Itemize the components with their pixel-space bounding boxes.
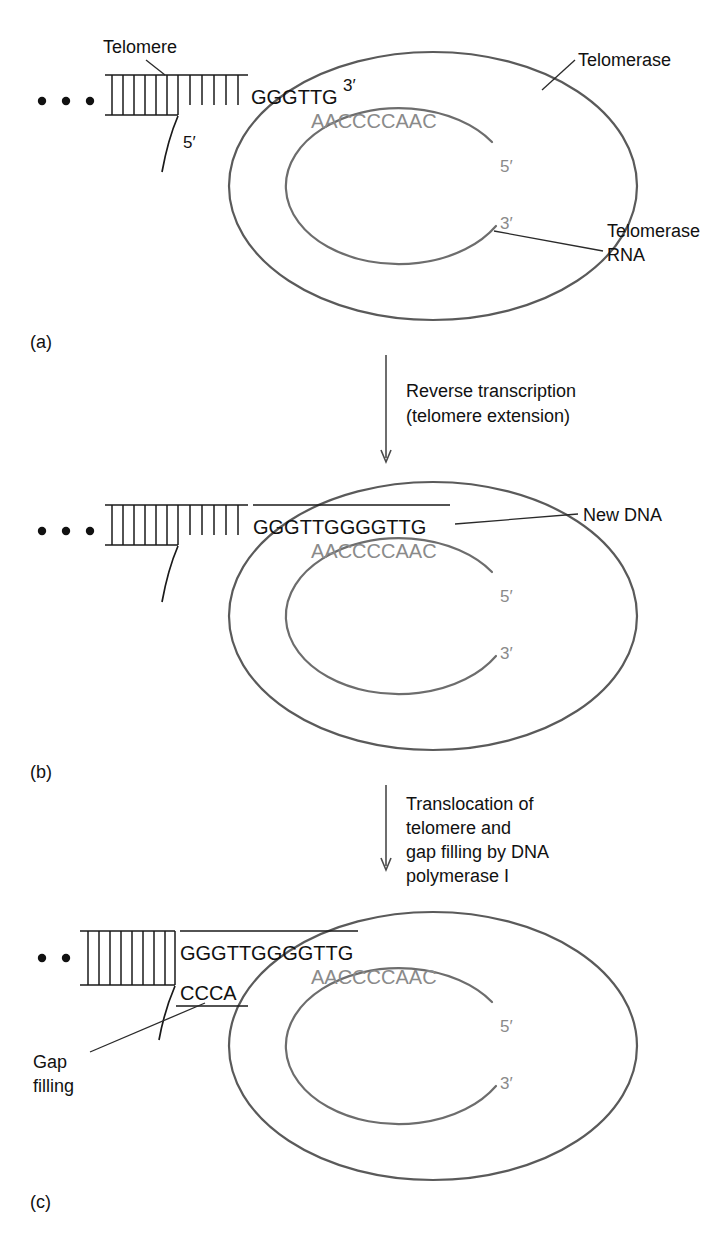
rna-sequence-a: AACCCCAAC — [311, 110, 437, 132]
dna-base-pair-rungs-c — [88, 931, 175, 985]
dna-continuation-dots-c — [38, 954, 70, 962]
step-arrow-b-to-c: Translocation of telomere and gap fillin… — [381, 785, 549, 886]
telomerase-figure: 5′ GGGTTG 3′ AACCCCAAC 5′ 3′ Telomere Te… — [0, 0, 719, 1239]
panel-a: 5′ GGGTTG 3′ AACCCCAAC 5′ 3′ Telomere Te… — [30, 37, 700, 352]
dna-continuation-dots-a — [38, 97, 94, 105]
step-label-bc-line4: polymerase I — [406, 866, 509, 886]
dna-three-prime-label-a: 3′ — [343, 76, 356, 95]
panel-c: GGGTTGGGGTTG CCCA AACCCCAAC 5′ 3′ Gap fi… — [30, 912, 637, 1212]
step-label-bc-line2: telomere and — [406, 818, 511, 838]
rna-five-prime-label-b: 5′ — [500, 587, 513, 606]
gap-filling-label-line1-c: Gap — [33, 1052, 67, 1072]
panel-label-b: (b) — [30, 762, 52, 782]
dna-five-prime-tail-c — [159, 986, 175, 1040]
telomere-label-a: Telomere — [103, 37, 177, 57]
rna-three-prime-label-a: 3′ — [500, 214, 513, 233]
panel-label-c: (c) — [30, 1192, 51, 1212]
rna-sequence-b: AACCCCAAC — [311, 540, 437, 562]
dna-continuation-dots-b — [38, 527, 94, 535]
dna-overhang-ticks-a — [190, 75, 238, 105]
dna-five-prime-tail-a — [162, 116, 178, 172]
rna-five-prime-label-c: 5′ — [500, 1017, 513, 1036]
step-label-ab-line2: (telomere extension) — [406, 406, 570, 426]
rna-three-prime-label-c: 3′ — [500, 1074, 513, 1093]
rna-three-prime-label-b: 3′ — [500, 644, 513, 663]
panel-label-a: (a) — [30, 332, 52, 352]
gap-filling-leader-line-c — [90, 1003, 205, 1052]
dna-five-prime-label-a: 5′ — [183, 133, 196, 152]
telomerase-rna-leader-line-a — [494, 231, 603, 251]
new-dna-label-b: New DNA — [583, 505, 662, 525]
complement-sequence-c: CCCA — [180, 982, 237, 1004]
telomere-leader-line-a — [146, 60, 165, 75]
step-label-bc-line3: gap filling by DNA — [406, 842, 549, 862]
step-arrow-a-to-b: Reverse transcription (telomere extensio… — [381, 355, 576, 462]
dna-overhang-ticks-b — [190, 505, 238, 535]
rna-five-prime-label-a: 5′ — [500, 157, 513, 176]
telomerase-rna-label-line1-a: Telomerase — [607, 221, 700, 241]
step-label-bc-line1: Translocation of — [406, 794, 534, 814]
telomerase-rna-label-line2-a: RNA — [607, 245, 645, 265]
new-dna-leader-line-b — [455, 514, 578, 524]
step-label-ab-line1: Reverse transcription — [406, 381, 576, 401]
telomerase-label-a: Telomerase — [578, 50, 671, 70]
dna-sequence-c: GGGTTGGGGTTG — [180, 942, 353, 964]
telomerase-rna-loop-c — [286, 968, 496, 1124]
gap-filling-label-line2-c: filling — [33, 1076, 74, 1096]
dna-sequence-b: GGGTTGGGGTTG — [253, 516, 426, 538]
panel-b: GGGTTGGGGTTG AACCCCAAC 5′ 3′ New DNA (b) — [30, 482, 662, 782]
dna-base-pair-rungs-b — [112, 505, 178, 545]
dna-sequence-a: GGGTTG — [251, 86, 338, 108]
dna-five-prime-tail-b — [162, 546, 178, 602]
rna-sequence-c: AACCCCAAC — [311, 966, 437, 988]
dna-base-pair-rungs-a — [112, 75, 178, 115]
